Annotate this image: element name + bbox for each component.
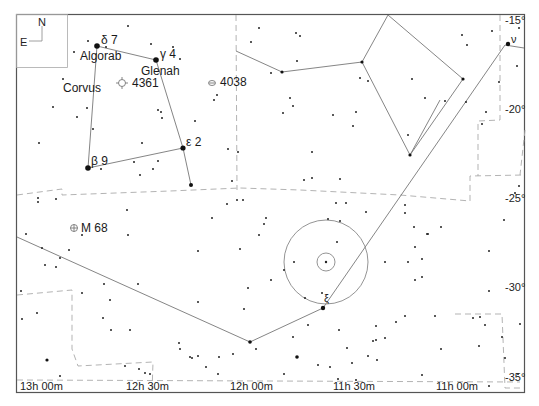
label-ngc4038[interactable]: 4038 <box>220 76 247 88</box>
label-m68[interactable]: M 68 <box>81 222 108 234</box>
label-nu-hya: ν <box>511 34 517 45</box>
label-beta-crv: β 9 <box>91 155 108 167</box>
label-xi-hya: ξ <box>324 293 329 304</box>
ra-label-12h30m: 12h 30m <box>126 381 169 392</box>
ra-label-12h00m: 12h 00m <box>230 381 273 392</box>
ra-label-11h00m: 11h 00m <box>436 381 478 392</box>
m68-symbol[interactable] <box>71 225 78 232</box>
dec-label-35: -35° <box>505 372 525 383</box>
dec-label-30: -30° <box>505 282 525 293</box>
label-gamma-crv: γ 4 <box>160 48 176 60</box>
star-gamma-crv <box>153 57 159 63</box>
label-ngc4361[interactable]: 4361 <box>132 77 159 89</box>
star-nu-hya <box>506 42 510 46</box>
label-corvus: Corvus <box>63 82 101 94</box>
dec-label-25: -25° <box>505 193 525 204</box>
star-alpha-crv <box>189 183 193 187</box>
dec-label-20: -20° <box>505 104 525 115</box>
compass-east-label: E <box>20 37 27 48</box>
star-delta-crv <box>94 43 100 49</box>
star-beta-crv <box>85 165 91 171</box>
label-delta-crv: δ 7 <box>101 34 118 46</box>
chart-frame <box>17 15 525 393</box>
label-algorab: Algorab <box>80 50 121 62</box>
dec-label-15: -15° <box>505 15 525 26</box>
label-epsilon-crv: ε 2 <box>186 136 201 148</box>
star-epsilon-crv <box>180 145 185 150</box>
star-xi-hya <box>321 306 325 310</box>
ra-label-11h30m: 11h 30m <box>333 381 375 392</box>
ra-label-13h00m: 13h 00m <box>20 381 63 392</box>
compass-north-label: N <box>38 17 46 28</box>
